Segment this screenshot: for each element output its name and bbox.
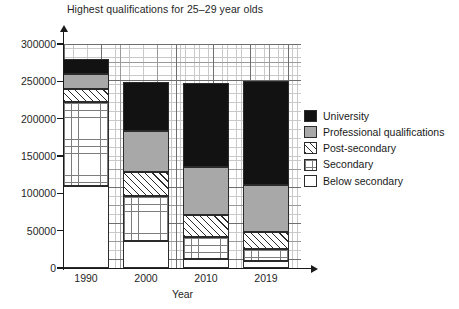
dashed-horizontal-swatch (304, 175, 317, 187)
bar-segment-professional-qualifications (243, 185, 289, 232)
y-tick-mark (57, 81, 64, 82)
bar-segment-university (123, 82, 169, 131)
solid-gray-swatch (304, 126, 317, 138)
fine-grid-swatch (304, 159, 317, 171)
bar-segment-post-secondary (243, 232, 289, 248)
y-tick-label: 0 (4, 262, 56, 274)
y-axis-arrow (60, 25, 68, 32)
x-axis-title: Year (64, 288, 301, 300)
y-tick-label: 250000 (4, 75, 56, 87)
legend-label: Professional qualifications (323, 127, 444, 138)
legend-label: University (323, 111, 369, 122)
bar-segment-university (183, 83, 229, 167)
y-axis-line (63, 31, 64, 270)
bar-segment-below-secondary (243, 261, 289, 268)
y-tick-mark (57, 43, 64, 44)
bar-segment-secondary (63, 102, 109, 186)
bar-1990 (63, 44, 109, 268)
bar-segment-university (243, 81, 289, 186)
y-tick-label: 200000 (4, 113, 56, 125)
bar-segment-post-secondary (63, 89, 109, 102)
solid-black-swatch (304, 110, 317, 122)
bar-2010 (183, 44, 229, 268)
bar-segment-post-secondary (123, 172, 169, 196)
x-tick-label-1990: 1990 (56, 272, 116, 284)
y-tick-mark (57, 267, 64, 268)
y-tick-label: 50000 (4, 225, 56, 237)
plot-area (64, 44, 301, 268)
y-tick-label: 300000 (4, 38, 56, 50)
legend-item-below-secondary[interactable]: Below secondary (304, 173, 456, 189)
legend-item-university[interactable]: University (304, 108, 456, 124)
bar-segment-below-secondary (63, 186, 109, 268)
chart-legend: UniversityProfessional qualificationsPos… (304, 108, 456, 189)
x-tick-label-2010: 2010 (176, 272, 236, 284)
bar-segment-professional-qualifications (183, 167, 229, 215)
y-tick-mark (57, 118, 64, 119)
legend-label: Below secondary (323, 176, 403, 187)
bar-segment-professional-qualifications (123, 131, 169, 172)
bar-segment-below-secondary (183, 259, 229, 268)
bar-2000 (123, 44, 169, 268)
legend-item-professional-qualifications[interactable]: Professional qualifications (304, 124, 456, 140)
bar-segment-university (63, 59, 109, 74)
x-tick-label-2000: 2000 (116, 272, 176, 284)
y-tick-label: 150000 (4, 150, 56, 162)
legend-label: Secondary (323, 159, 373, 170)
y-axis-ticks: 050000100000150000200000250000300000 (0, 0, 56, 309)
bar-segment-secondary (183, 237, 229, 259)
legend-item-secondary[interactable]: Secondary (304, 157, 456, 173)
y-tick-mark (57, 193, 64, 194)
bar-segment-below-secondary (123, 241, 169, 268)
diagonal-hatch-swatch (304, 142, 317, 154)
bar-segment-secondary (123, 196, 169, 241)
y-tick-mark (57, 155, 64, 156)
legend-label: Post-secondary (323, 143, 396, 154)
x-axis-arrow (311, 265, 318, 273)
bar-segment-secondary (243, 249, 289, 262)
bar-2019 (243, 44, 289, 268)
x-axis-line (63, 268, 313, 269)
x-tick-label-2019: 2019 (236, 272, 296, 284)
legend-item-post-secondary[interactable]: Post-secondary (304, 140, 456, 156)
stacked-bar-chart: Highest qualifications for 25–29 year ol… (0, 0, 459, 309)
bar-segment-post-secondary (183, 215, 229, 237)
y-tick-mark (57, 230, 64, 231)
bar-segment-professional-qualifications (63, 74, 109, 89)
y-tick-label: 100000 (4, 187, 56, 199)
